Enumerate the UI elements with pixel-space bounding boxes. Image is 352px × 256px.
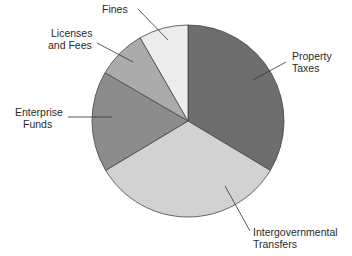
label-line: Taxes (292, 62, 332, 74)
label-licenses-and-fees: Licenses and Fees (48, 27, 92, 51)
pie-slices (92, 25, 284, 217)
label-property-taxes: Property Taxes (292, 50, 332, 74)
label-fines: Fines (102, 3, 128, 15)
label-line: Intergovernmental (253, 226, 338, 238)
label-line: Licenses (48, 27, 92, 39)
label-line: Fines (102, 3, 128, 15)
label-line: Funds (15, 118, 63, 130)
label-line: Enterprise (15, 106, 63, 118)
label-line: Property (292, 50, 332, 62)
label-line: and Fees (48, 39, 92, 51)
label-enterprise-funds: Enterprise Funds (15, 106, 63, 130)
label-line: Transfers (253, 238, 338, 250)
label-intergovernmental-transfers: Intergovernmental Transfers (253, 226, 338, 250)
